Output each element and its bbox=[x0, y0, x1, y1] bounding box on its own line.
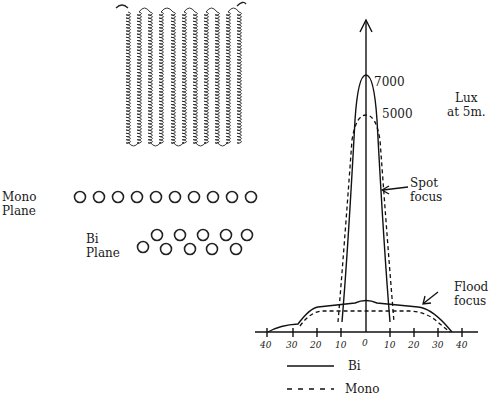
y-axis-unit-label: Lux at 5m. bbox=[447, 91, 486, 119]
flood-focus-label: Flood focus bbox=[454, 280, 488, 308]
bi-plane-label: Bi Plane bbox=[86, 232, 120, 260]
spot-arrow-icon bbox=[382, 186, 408, 194]
tick-label: 30 bbox=[432, 338, 443, 352]
legend-bi-label: Bi bbox=[348, 359, 361, 373]
filament-coil-icon bbox=[116, 2, 246, 146]
tick-label: 30 bbox=[286, 338, 297, 352]
bi-plane-circles bbox=[138, 230, 253, 255]
spot-focus-label: Spot focus bbox=[410, 176, 442, 204]
peak-bi-label: 7000 bbox=[374, 75, 405, 89]
tick-label: 10 bbox=[384, 338, 395, 352]
tick-label: 40 bbox=[260, 338, 271, 352]
chart-axes bbox=[255, 20, 478, 337]
tick-label: 20 bbox=[408, 338, 419, 352]
tick-label: 0 bbox=[362, 336, 368, 350]
legend-mono-label: Mono bbox=[345, 382, 379, 396]
mono-flood-curve bbox=[300, 311, 450, 332]
tick-label: 40 bbox=[456, 338, 467, 352]
bi-flood-curve bbox=[268, 301, 452, 333]
tick-label: 10 bbox=[335, 338, 346, 352]
mono-plane-label: Mono Plane bbox=[2, 190, 36, 218]
flood-arrow-icon bbox=[423, 292, 438, 304]
mono-plane-circles bbox=[75, 192, 257, 203]
tick-label: 20 bbox=[310, 338, 321, 352]
peak-mono-label: 5000 bbox=[382, 107, 413, 121]
